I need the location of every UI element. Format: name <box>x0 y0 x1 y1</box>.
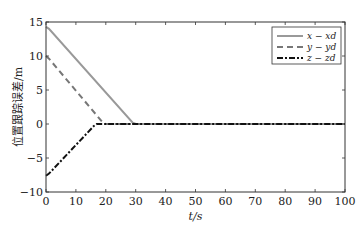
y-tick-label: −10 <box>20 186 43 199</box>
x-axis-label: t/s <box>189 210 203 223</box>
legend-label-2: z − zd <box>306 53 336 63</box>
y-tick-label: −5 <box>27 152 43 165</box>
chart: 0102030405060708090100 −10−5051015 t/s 位… <box>0 0 364 228</box>
series-line-1 <box>46 56 345 124</box>
y-tick-label: 0 <box>36 118 43 131</box>
x-tick-label: 30 <box>129 195 143 208</box>
y-tick-label: 15 <box>29 16 43 29</box>
x-tick-label: 40 <box>159 195 173 208</box>
x-tick-label: 60 <box>218 195 232 208</box>
legend-label-0: x − xd <box>307 31 336 41</box>
x-tick-label: 0 <box>43 195 50 208</box>
x-tick-label: 80 <box>278 195 292 208</box>
x-tick-label: 50 <box>189 195 203 208</box>
legend-label-1: y − yd <box>306 42 336 52</box>
x-tick-label: 70 <box>248 195 262 208</box>
legend: x − xdy − ydz − zd <box>272 27 341 64</box>
x-tick-label: 20 <box>99 195 113 208</box>
x-tick-label: 90 <box>308 195 322 208</box>
y-axis-label: 位置跟踪误差/m <box>11 66 25 147</box>
y-tick-label: 5 <box>36 84 43 97</box>
series-line-2 <box>46 124 345 176</box>
x-tick-label: 10 <box>69 195 83 208</box>
x-tick-label: 100 <box>335 195 356 208</box>
y-tick-label: 10 <box>29 50 43 63</box>
